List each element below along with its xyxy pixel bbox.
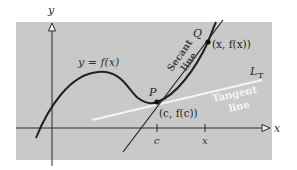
point-q-coords: (x, f(x))	[212, 38, 251, 50]
curve-label: y = f(x)	[77, 56, 119, 69]
tick-c-label: c	[154, 135, 160, 146]
secant-tangent-diagram: y x c x P (c, f(c)) Q (x, f(x))	[0, 0, 297, 170]
tick-x-label: x	[202, 135, 208, 146]
point-q	[205, 39, 210, 44]
point-p-label: P	[148, 86, 157, 99]
point-q-label: Q	[193, 27, 202, 40]
point-p	[154, 99, 159, 104]
y-axis-label: y	[47, 4, 55, 17]
x-axis-label: x	[274, 122, 281, 135]
point-p-coords: (c, f(c))	[159, 107, 198, 119]
svg-text:L: L	[249, 65, 257, 78]
svg-text:T: T	[258, 71, 264, 80]
